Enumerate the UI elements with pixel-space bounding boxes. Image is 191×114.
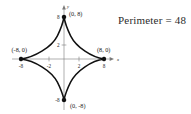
point-label-left: (-8, 0) [12,46,27,54]
y-tick-label--8: -8 [55,97,60,103]
vertex-dot-right [102,57,106,61]
x-tick-label--8: -8 [19,63,24,69]
y-axis-label: y [66,4,70,9]
x-axis-arrow-icon [110,57,114,61]
perimeter-annotation: Perimeter = 48 [118,14,186,26]
vertex-dot-left [19,57,23,61]
x-axis-label: x [116,57,119,62]
vertex-dot-top [62,15,66,19]
x-tick-label--2: -2 [47,63,52,69]
x-tick-label-8: 8 [103,63,106,69]
astroid-curve [21,17,104,100]
vertex-dot-bottom [62,98,66,102]
point-label-bottom: (0, -8) [70,102,85,110]
point-label-top: (0, 8) [69,10,82,18]
y-tick-label-8: 8 [57,14,60,20]
y-tick-label-2: 2 [57,42,60,48]
y-axis-arrow-icon [62,5,66,9]
x-tick-label-2: 2 [78,63,81,69]
point-label-right: (8, 0) [97,46,110,54]
